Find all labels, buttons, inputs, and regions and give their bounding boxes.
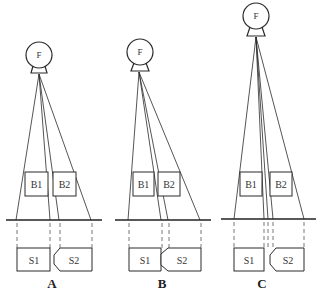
focal-spot-icon: F xyxy=(26,42,52,73)
image-s1: S1 xyxy=(234,248,264,271)
object-b2: B2 xyxy=(158,172,180,196)
projection-rays xyxy=(16,74,91,220)
svg-text:S2: S2 xyxy=(69,255,80,266)
panel-c: F B1 B2 S1 S2 xyxy=(221,3,316,291)
focal-label: F xyxy=(36,50,41,60)
dashed-projections xyxy=(129,223,201,248)
image-s2: S2 xyxy=(54,248,92,271)
object-b2: B2 xyxy=(53,172,76,196)
svg-text:B2: B2 xyxy=(275,179,287,190)
object-b1: B1 xyxy=(133,172,154,196)
image-s1: S1 xyxy=(129,248,161,271)
svg-text:B1: B1 xyxy=(245,179,257,190)
panel-label: A xyxy=(47,276,57,291)
image-s2: S2 xyxy=(161,248,201,271)
panel-label: B xyxy=(158,276,167,291)
focal-spot-icon: F xyxy=(243,3,269,36)
focal-spot-icon: F xyxy=(127,39,153,71)
object-b2: B2 xyxy=(270,172,292,196)
svg-text:S2: S2 xyxy=(177,255,188,266)
panel-a: F B1 B2 S1 xyxy=(6,42,102,291)
svg-text:B2: B2 xyxy=(59,179,71,190)
object-b1: B1 xyxy=(240,172,262,196)
panel-label: C xyxy=(257,276,266,291)
svg-text:B2: B2 xyxy=(163,179,175,190)
image-s2: S2 xyxy=(270,248,304,271)
panel-b: F B1 B2 S1 S2 B xyxy=(115,39,211,291)
svg-text:S1: S1 xyxy=(244,255,255,266)
image-s1: S1 xyxy=(17,248,50,271)
dashed-projections xyxy=(234,222,304,248)
focal-label: F xyxy=(137,47,142,57)
svg-text:B1: B1 xyxy=(138,179,150,190)
focal-label: F xyxy=(253,11,258,21)
object-b1: B1 xyxy=(25,172,48,196)
svg-text:S1: S1 xyxy=(29,255,40,266)
svg-text:B1: B1 xyxy=(31,179,43,190)
svg-text:S1: S1 xyxy=(140,255,151,266)
svg-text:S2: S2 xyxy=(283,255,294,266)
projection-rays xyxy=(128,72,200,220)
dashed-projections xyxy=(17,223,92,248)
